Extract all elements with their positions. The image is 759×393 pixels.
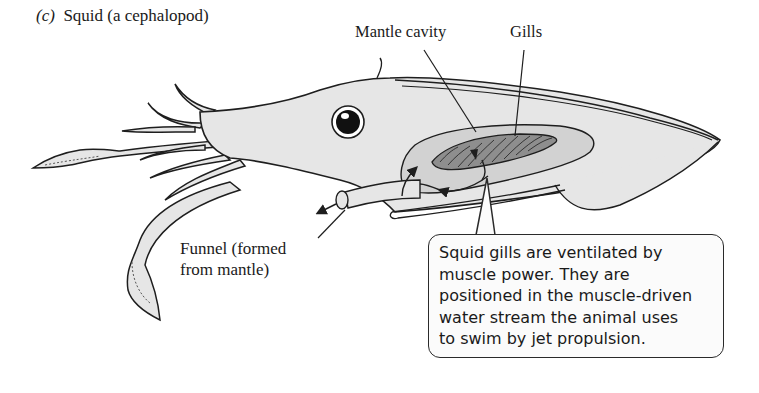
callout-line: positioned in the muscle-driven — [439, 285, 713, 307]
figure-title: (c) Squid (a cephalopod) — [36, 6, 209, 26]
callout-line: Squid gills are ventilated by — [439, 242, 713, 264]
label-gills: Gills — [510, 22, 542, 42]
label-mantle-cavity: Mantle cavity — [355, 22, 446, 42]
eye — [332, 106, 364, 138]
panel-letter: (c) — [36, 6, 55, 25]
callout-line: muscle power. They are — [439, 264, 713, 286]
title-text: Squid (a cephalopod) — [63, 6, 208, 25]
funnel-label-line-1: Funnel (formed — [180, 238, 340, 259]
label-funnel: Funnel (formed from mantle) — [180, 238, 340, 280]
callout-line: to swim by jet propulsion. — [439, 328, 713, 350]
figure: (c) Squid (a cephalopod) Mantle cavity G… — [0, 0, 759, 393]
funnel-label-line-2: from mantle) — [180, 259, 340, 280]
callout-line: water stream the animal uses — [439, 307, 713, 329]
callout-text: Squid gills are ventilated by muscle pow… — [439, 242, 713, 350]
callout-box: Squid gills are ventilated by muscle pow… — [428, 234, 724, 358]
